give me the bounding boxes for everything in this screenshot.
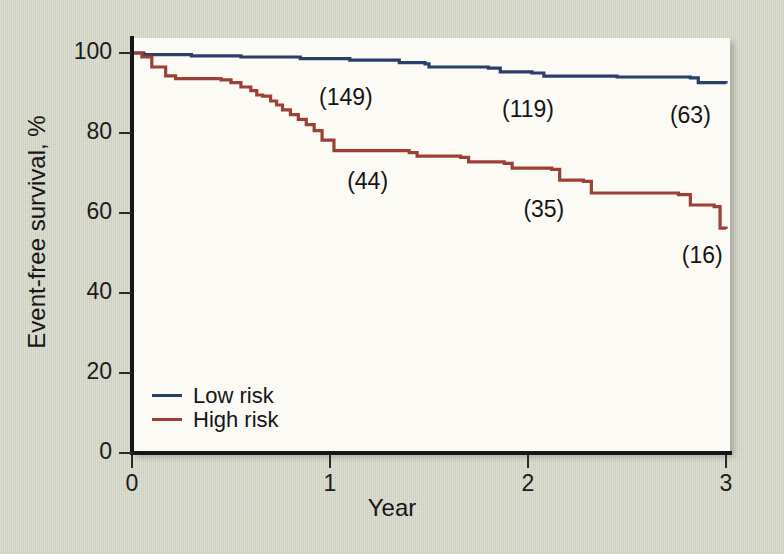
y-tick-mark: [119, 452, 132, 454]
at-risk-label: (149): [319, 84, 373, 111]
x-axis-line: [130, 451, 732, 455]
x-tick-label: 3: [720, 470, 733, 497]
x-tick-mark: [527, 455, 529, 468]
y-axis-line: [130, 36, 134, 455]
x-tick-label: 2: [522, 470, 535, 497]
legend-item-low-risk[interactable]: Low risk: [152, 385, 279, 406]
y-axis-title: Event-free survival, %: [23, 82, 51, 382]
y-tick-mark: [119, 52, 132, 54]
y-tick-label: 100: [40, 38, 112, 65]
x-tick-mark: [131, 455, 133, 468]
y-tick-mark: [119, 292, 132, 294]
x-tick-mark: [329, 455, 331, 468]
legend-item-high-risk[interactable]: High risk: [152, 409, 279, 430]
x-axis-title: Year: [0, 494, 784, 522]
at-risk-label: (35): [523, 196, 564, 223]
at-risk-label: (119): [502, 96, 554, 123]
y-tick-mark: [119, 372, 132, 374]
y-tick-mark: [119, 212, 132, 214]
legend-label-high-risk: High risk: [193, 409, 279, 430]
at-risk-label: (44): [347, 168, 388, 195]
survival-chart: 020406080100 0123 Year Event-free surviv…: [0, 0, 784, 554]
x-tick-label: 1: [324, 470, 337, 497]
legend-swatch-low-risk: [152, 394, 182, 397]
y-tick-mark: [119, 132, 132, 134]
legend-swatch-high-risk: [152, 418, 182, 421]
series-line-high-risk: [132, 53, 726, 229]
x-tick-mark: [725, 455, 727, 468]
legend-label-low-risk: Low risk: [193, 385, 274, 406]
legend: Low risk High risk: [152, 385, 279, 433]
y-tick-label: 0: [40, 438, 112, 465]
at-risk-label: (16): [682, 242, 723, 269]
at-risk-label: (63): [670, 102, 711, 129]
x-tick-label: 0: [126, 470, 139, 497]
